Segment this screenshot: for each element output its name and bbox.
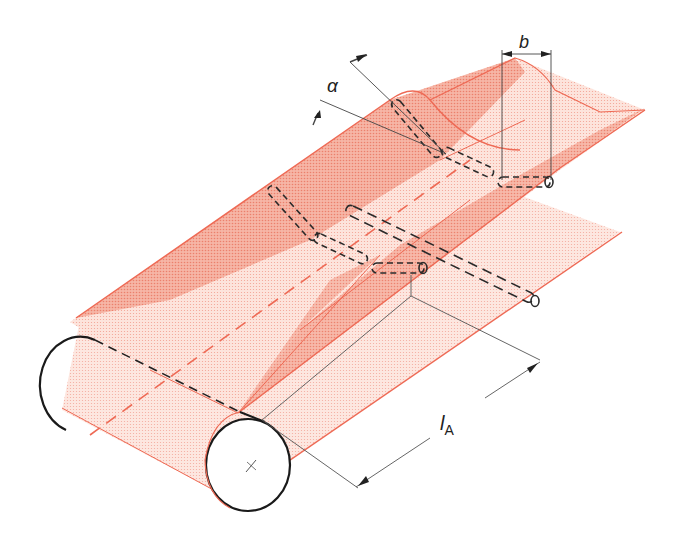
label-alpha: α <box>327 75 339 96</box>
conveyor-belt-diagram: α b lA <box>0 0 676 536</box>
label-lA: lA <box>440 412 454 438</box>
label-b: b <box>519 32 529 52</box>
